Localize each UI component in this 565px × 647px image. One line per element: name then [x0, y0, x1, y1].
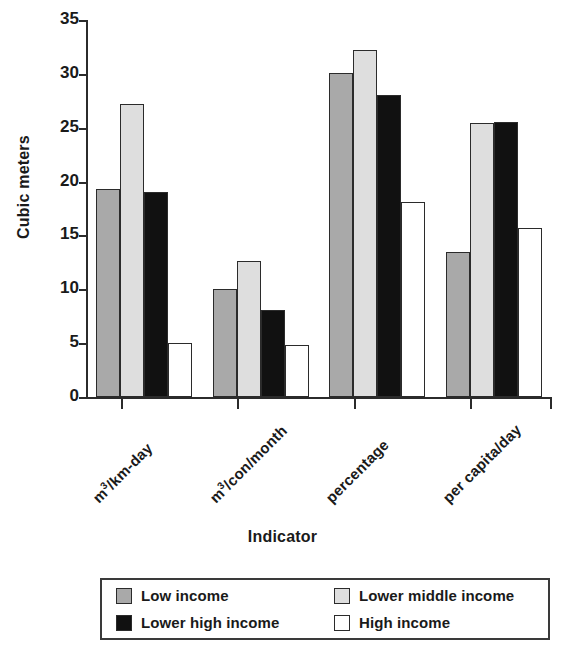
- x-category-label: m3/con/month: [206, 422, 290, 506]
- plot-area: 05101520253035: [86, 20, 552, 397]
- legend-label: Lower middle income: [359, 587, 514, 604]
- legend-item: Low income: [116, 587, 334, 604]
- x-tick-mark: [470, 399, 472, 409]
- legend-swatch: [334, 588, 350, 604]
- legend-swatch: [116, 588, 132, 604]
- legend-item: High income: [334, 614, 548, 631]
- y-tick-mark: [79, 397, 88, 399]
- legend-label: High income: [359, 614, 450, 631]
- x-tick-mark: [354, 399, 356, 409]
- y-tick-label: 35: [60, 9, 79, 29]
- bar: [120, 104, 144, 397]
- bar: [329, 73, 353, 397]
- x-category-label: m3/km-day: [89, 439, 156, 506]
- legend-item: Lower high income: [116, 614, 334, 631]
- bars-layer: [86, 20, 552, 397]
- bar: [518, 228, 542, 397]
- x-category-label: per capita/day: [439, 421, 524, 506]
- bar: [377, 95, 401, 397]
- legend-swatch: [334, 615, 350, 631]
- bar: [213, 289, 237, 397]
- y-tick-label: 25: [60, 117, 79, 137]
- bar: [353, 50, 377, 397]
- bar: [285, 345, 309, 397]
- x-tick-mark: [550, 399, 552, 409]
- bar: [237, 261, 261, 397]
- y-tick-label: 20: [60, 171, 79, 191]
- legend-label: Lower high income: [141, 614, 279, 631]
- bar: [494, 122, 518, 397]
- y-tick-label: 0: [70, 386, 79, 406]
- bar: [168, 343, 192, 397]
- bar: [261, 310, 285, 397]
- bar: [96, 189, 120, 397]
- x-tick-mark: [237, 399, 239, 409]
- x-axis-line: [86, 397, 552, 399]
- bar: [446, 252, 470, 397]
- legend-box: Low incomeLower middle incomeLower high …: [100, 578, 550, 640]
- x-category-label: percentage: [322, 436, 392, 506]
- bar: [401, 202, 425, 397]
- bar: [470, 123, 494, 397]
- bar: [144, 192, 168, 397]
- legend-label: Low income: [141, 587, 229, 604]
- legend-item: Lower middle income: [334, 587, 548, 604]
- x-axis-title: Indicator: [0, 528, 565, 546]
- y-axis-title: Cubic meters: [15, 107, 33, 267]
- bar-chart-figure: Cubic meters 05101520253035 m3/km-daym3/…: [0, 0, 565, 647]
- y-tick-label: 15: [60, 224, 79, 244]
- x-tick-mark: [121, 399, 123, 409]
- y-tick-label: 10: [60, 278, 79, 298]
- legend-swatch: [116, 615, 132, 631]
- y-tick-label: 5: [70, 332, 79, 352]
- y-tick-label: 30: [60, 63, 79, 83]
